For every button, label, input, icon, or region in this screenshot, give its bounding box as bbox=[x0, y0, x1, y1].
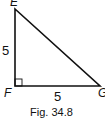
right-angle-marker bbox=[15, 79, 22, 86]
figure-caption: Fig. 34.8 bbox=[30, 106, 73, 118]
vertex-label-f: F bbox=[4, 86, 12, 100]
triangle-efg bbox=[15, 9, 100, 86]
side-label-fg: 5 bbox=[54, 89, 61, 104]
triangle-diagram: E F G 5 5 Fig. 34.8 bbox=[0, 0, 105, 119]
side-label-ef: 5 bbox=[2, 43, 9, 58]
vertex-label-e: E bbox=[10, 0, 19, 9]
vertex-label-g: G bbox=[98, 86, 105, 100]
